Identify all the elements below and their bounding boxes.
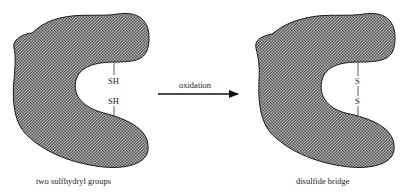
sh-label-upper: SH [108, 76, 119, 86]
sh-label-lower: SH [108, 96, 119, 106]
protein-shape-reduced [13, 13, 149, 167]
reaction-arrow: oxidation [158, 80, 238, 94]
right-protein: S S disulfide bridge [256, 13, 395, 186]
right-caption: disulfide bridge [296, 176, 350, 186]
protein-shape-oxidized [256, 13, 395, 167]
oxidation-diagram: SH SH two sulfhydryl groups oxidation S … [0, 0, 404, 192]
arrow-label: oxidation [179, 80, 212, 90]
s-label-lower: S [355, 96, 360, 106]
left-protein: SH SH two sulfhydryl groups [13, 13, 149, 186]
left-caption: two sulfhydryl groups [36, 176, 111, 186]
s-label-upper: S [355, 76, 360, 86]
